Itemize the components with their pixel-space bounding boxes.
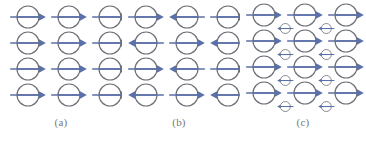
small-spin-r2-c1 <box>318 76 334 86</box>
spin-arrow-head <box>357 89 364 96</box>
spin-arrow-head <box>39 91 46 98</box>
large-spin-r0-c0 <box>246 4 282 26</box>
spin-arrow-head <box>80 13 87 20</box>
spin-r2-c0 <box>10 58 46 80</box>
small-spin-r0-c1 <box>318 24 334 34</box>
spin-r3-c0 <box>10 84 46 106</box>
spin-r1-c2 <box>210 32 240 54</box>
spin-arrow-head <box>277 105 280 108</box>
large-spin-r3-c1 <box>287 82 323 104</box>
spin-r0-c0 <box>128 6 164 28</box>
small-spin-r3-c1 <box>318 102 334 112</box>
panel-a-diagram <box>0 0 122 115</box>
spin-arrow-head <box>316 37 323 44</box>
large-spin-r2-c0 <box>246 56 282 78</box>
spin-arrow-head <box>277 53 280 56</box>
spin-arrow-head <box>210 39 217 46</box>
spin-arrow-head <box>169 13 176 20</box>
spin-arrow-head <box>275 63 282 70</box>
spin-arrow-head <box>198 91 205 98</box>
spin-arrow-head <box>39 39 46 46</box>
large-spin-r3-c0 <box>246 82 282 104</box>
spin-r2-c0 <box>128 58 164 80</box>
large-spin-r0-c1 <box>287 4 323 26</box>
spin-arrow-head <box>277 27 280 30</box>
spin-arrow-head <box>318 53 321 56</box>
panel-c-ferrimagnetic: (c) <box>240 0 362 143</box>
spin-r1-c1 <box>51 32 87 54</box>
large-spin-r3-c2 <box>328 82 364 104</box>
spin-arrow-head <box>157 65 164 72</box>
large-spin-r1-c1 <box>287 30 323 52</box>
spin-arrow-head <box>318 27 321 30</box>
spin-arrow-head <box>80 39 87 46</box>
small-spin-r1-c1 <box>318 50 334 60</box>
spin-arrow-head <box>357 63 364 70</box>
spin-r3-c0 <box>128 84 164 106</box>
spin-arrow-head <box>318 79 321 82</box>
panel-a-ferromagnetic: (a) <box>0 0 122 143</box>
spin-arrow-head <box>316 63 323 70</box>
small-spin-r0-c0 <box>277 24 293 34</box>
spin-arrow-head <box>128 39 135 46</box>
spin-r1-c1 <box>169 32 205 54</box>
spin-arrow-head <box>169 65 176 72</box>
panel-b-antiferromagnetic: (b) <box>118 0 240 143</box>
spin-r2-c2 <box>210 58 240 80</box>
large-spin-r2-c2 <box>328 56 364 78</box>
spin-arrow-head <box>157 13 164 20</box>
large-spin-r1-c2 <box>328 30 364 52</box>
spin-arrow-head <box>39 13 46 20</box>
spin-r1-c0 <box>10 32 46 54</box>
spin-arrow-head <box>198 39 205 46</box>
large-spin-r2-c1 <box>287 56 323 78</box>
spin-arrow-head <box>80 91 87 98</box>
panel-a-caption: (a) <box>0 116 122 128</box>
spin-arrow-head <box>39 65 46 72</box>
spin-arrow-head <box>277 79 280 82</box>
panel-b-diagram <box>118 0 240 115</box>
panel-b-caption: (b) <box>118 116 240 128</box>
spin-r2-c1 <box>51 58 87 80</box>
spin-r0-c1 <box>51 6 87 28</box>
panel-c-caption: (c) <box>240 116 366 128</box>
spin-arrow-head <box>357 11 364 18</box>
spin-arrow-head <box>316 11 323 18</box>
spin-arrow-head <box>275 11 282 18</box>
spin-arrow-head <box>316 89 323 96</box>
spin-r2-c1 <box>169 58 205 80</box>
spin-r0-c0 <box>10 6 46 28</box>
spin-arrow-head <box>318 105 321 108</box>
small-spin-r2-c0 <box>277 76 293 86</box>
spin-r0-c2 <box>210 6 240 28</box>
spin-arrow-head <box>128 91 135 98</box>
spin-arrow-head <box>210 91 217 98</box>
panel-c-diagram <box>240 0 366 115</box>
spin-r0-c1 <box>169 6 205 28</box>
small-spin-r3-c0 <box>277 102 293 112</box>
spin-arrow-head <box>275 89 282 96</box>
spin-r3-c1 <box>169 84 205 106</box>
spin-arrow-head <box>275 37 282 44</box>
spin-arrow-head <box>357 37 364 44</box>
large-spin-r1-c0 <box>246 30 282 52</box>
large-spin-r0-c2 <box>328 4 364 26</box>
small-spin-r1-c0 <box>277 50 293 60</box>
spin-r1-c0 <box>128 32 164 54</box>
spin-r3-c2 <box>210 84 240 106</box>
spin-arrow-head <box>80 65 87 72</box>
magnetic-ordering-figure: (a) (b) (c) <box>0 0 366 143</box>
spin-r3-c1 <box>51 84 87 106</box>
